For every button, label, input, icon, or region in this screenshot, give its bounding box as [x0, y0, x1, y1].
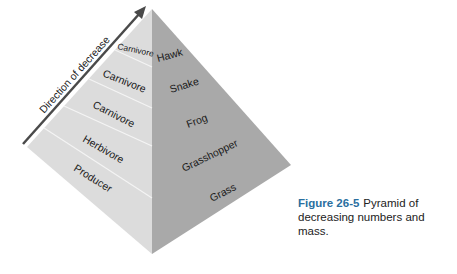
figure-number: Figure 26-5 — [298, 197, 359, 209]
pyramid-right-face — [152, 9, 291, 254]
figure-caption: Figure 26-5Pyramid of decreasing numbers… — [298, 196, 457, 238]
